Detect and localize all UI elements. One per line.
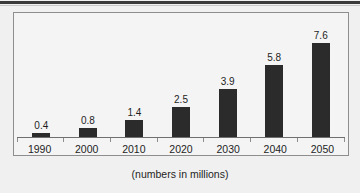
bar-group: 5.8: [251, 17, 298, 138]
x-axis-tick: [64, 138, 111, 142]
x-axis-tick: [298, 138, 345, 142]
bar-group: 0.4: [18, 17, 65, 138]
bar-value-label: 7.6: [314, 30, 328, 41]
x-axis-tick: [111, 138, 158, 142]
x-axis-label: 2050: [299, 143, 346, 156]
bar-group: 0.8: [65, 17, 112, 138]
bar-value-label: 0.8: [81, 115, 95, 126]
bar-value-label: 0.4: [34, 120, 48, 131]
bar-group: 3.9: [204, 17, 251, 138]
x-axis-line: [17, 137, 345, 138]
bar-rect: [172, 107, 190, 138]
top-rule-divider: [0, 1, 360, 4]
x-axis-labels: 1990 2000 2010 2020 2030 2040 2050: [16, 143, 346, 156]
x-axis-ticks: [17, 138, 345, 142]
x-axis-label: 2040: [252, 143, 299, 156]
x-axis-tick: [158, 138, 205, 142]
top-rule-divider-thin: [0, 5, 360, 6]
x-axis-tick: [251, 138, 298, 142]
x-axis-label: 2010: [110, 143, 157, 156]
bar-value-label: 2.5: [174, 94, 188, 105]
bar-value-label: 3.9: [221, 76, 235, 87]
bar-group: 7.6: [297, 17, 344, 138]
bar-value-label: 1.4: [127, 107, 141, 118]
x-axis-label: 2000: [63, 143, 110, 156]
bar-rect: [312, 43, 330, 138]
x-axis-tick: [17, 138, 64, 142]
x-axis-label: 2020: [157, 143, 204, 156]
bar-group: 1.4: [111, 17, 158, 138]
bar-rect: [125, 120, 143, 138]
plot-area: 0.4 0.8 1.4 2.5 3.9 5.8 7.6: [18, 17, 344, 138]
chart-caption: (numbers in millions): [0, 168, 360, 181]
bar-rect: [219, 89, 237, 138]
bar-rect: [265, 65, 283, 138]
bar-group: 2.5: [158, 17, 205, 138]
bar-chart-frame: 0.4 0.8 1.4 2.5 3.9 5.8 7.6: [13, 12, 349, 156]
x-axis-label: 2030: [205, 143, 252, 156]
x-axis-tick: [204, 138, 251, 142]
x-axis-label: 1990: [16, 143, 63, 156]
bar-value-label: 5.8: [267, 52, 281, 63]
